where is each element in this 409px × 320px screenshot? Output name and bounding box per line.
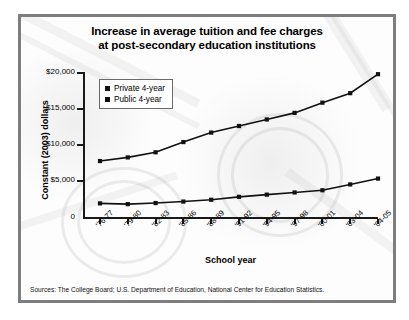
square-marker-icon: [105, 97, 110, 102]
data-point-marker: [126, 155, 130, 159]
data-point-marker: [348, 91, 352, 95]
square-marker-icon: [105, 86, 110, 91]
data-point-marker: [98, 159, 102, 163]
data-point-marker: [237, 124, 241, 128]
data-point-marker: [348, 182, 352, 186]
legend: Private 4-year Public 4-year: [99, 79, 173, 109]
data-point-marker: [126, 202, 130, 206]
x-axis-title: School year: [83, 255, 378, 265]
data-point-marker: [181, 199, 185, 203]
data-point-marker: [154, 201, 158, 205]
data-point-marker: [237, 195, 241, 199]
series-line: [100, 179, 378, 205]
data-point-marker: [320, 188, 324, 192]
data-point-marker: [209, 198, 213, 202]
source-note: Sources: The College Board; U.S. Departm…: [30, 286, 387, 293]
data-point-marker: [209, 130, 213, 134]
data-point-marker: [376, 176, 380, 180]
data-point-marker: [376, 72, 380, 76]
data-point-marker: [98, 201, 102, 205]
data-point-marker: [293, 111, 297, 115]
legend-label: Private 4-year: [114, 84, 165, 93]
data-point-marker: [320, 101, 324, 105]
plot-area: $20,000 $15,000 $10,000 $5,000 0 Constan…: [21, 17, 393, 300]
data-point-marker: [265, 117, 269, 121]
legend-item-public: Public 4-year: [105, 94, 165, 105]
chart-figure: Increase in average tuition and fee char…: [18, 14, 396, 303]
data-point-marker: [293, 190, 297, 194]
data-point-marker: [154, 150, 158, 154]
data-point-marker: [181, 140, 185, 144]
data-point-marker: [265, 193, 269, 197]
legend-item-private: Private 4-year: [105, 83, 165, 94]
legend-label: Public 4-year: [114, 95, 162, 104]
